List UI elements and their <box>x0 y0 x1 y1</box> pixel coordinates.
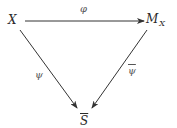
node-m-x-subscript: X <box>159 19 165 28</box>
node-x: X <box>8 14 17 26</box>
node-m-x-main: M <box>146 12 158 26</box>
label-psi: ψ <box>35 70 43 80</box>
label-psi-bar: ψ <box>128 66 136 76</box>
node-s-bar: S <box>80 115 88 127</box>
node-m-x: MX <box>146 13 165 25</box>
label-phi: φ <box>80 4 87 14</box>
arrow-psibar <box>92 30 147 108</box>
arrow-psi <box>20 30 77 108</box>
